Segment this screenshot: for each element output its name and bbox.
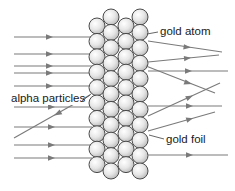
gold-atom: [132, 24, 148, 40]
gold-atom: [103, 9, 119, 25]
gold-atom: [132, 101, 148, 117]
gold-foil-label-group: gold foil: [149, 133, 206, 145]
gold-atom: [103, 71, 119, 87]
gold-atom: [132, 40, 148, 56]
gold-atom: [103, 86, 119, 102]
gold-atom: [132, 117, 148, 133]
gold-atom-pointer: [147, 32, 158, 34]
gold-atom: [103, 132, 119, 148]
gold-atom: [132, 132, 148, 148]
gold-atom: [132, 71, 148, 87]
gold-foil-experiment-diagram: gold atom alpha particles gold foil: [0, 0, 235, 191]
gold-atom: [103, 163, 119, 179]
gold-atom: [103, 24, 119, 40]
gold-foil-pointer: [149, 135, 164, 139]
gold-atom: [103, 101, 119, 117]
gold-foil-lattice: [89, 9, 148, 179]
gold-atom: [103, 148, 119, 164]
alpha-particles-label-group: alpha particles: [10, 91, 91, 105]
gold-atom: [132, 86, 148, 102]
gold-atom: [103, 117, 119, 133]
gold-atom: [132, 163, 148, 179]
gold-atom: [132, 148, 148, 164]
gold-atom: [132, 55, 148, 71]
gold-atom: [103, 55, 119, 71]
gold-atom-label-group: gold atom: [147, 25, 211, 37]
gold-atom: [103, 40, 119, 56]
gold-atom-label: gold atom: [160, 25, 211, 37]
alpha-particles-label: alpha particles: [11, 92, 85, 104]
gold-foil-label: gold foil: [166, 133, 206, 145]
gold-atom: [132, 9, 148, 25]
